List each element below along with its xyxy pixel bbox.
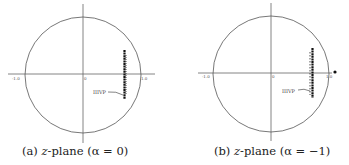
tick-right: 1.0 (141, 76, 148, 81)
caption-a: (a) z-plane (α = 0) (22, 144, 128, 158)
outside-pole-marker (333, 70, 336, 73)
tick-center: 0 (84, 76, 87, 81)
annotation-arrow (298, 89, 310, 91)
annotation-label: IIIVP (282, 88, 296, 94)
caption-prefix: (b) (214, 144, 234, 158)
z-plane-plot-a: -1.0 0 1.0 IIIVP (0, 0, 175, 165)
tick-right: 1.0 (326, 74, 333, 79)
panel-b: -1.0 0 1.0 IIIVP (b) z-plane (α = −1) (174, 0, 349, 165)
annotation-label: IIIVP (93, 89, 107, 95)
z-plane-plot-b: -1.0 0 1.0 IIIVP (174, 0, 349, 165)
panel-a: -1.0 0 1.0 IIIVP (a) z-plane (α = 0) (0, 0, 175, 165)
caption-b: (b) z-plane (α = −1) (214, 144, 330, 158)
annotation-arrow (108, 92, 123, 95)
caption-rest: -plane (α = −1) (240, 144, 330, 158)
caption-rest: -plane (α = 0) (48, 144, 129, 158)
tick-left: -1.0 (202, 74, 210, 79)
tick-left: -1.0 (12, 76, 20, 81)
tick-center: 0 (272, 74, 275, 79)
caption-prefix: (a) (22, 144, 42, 158)
pole-zero-cluster (125, 50, 127, 99)
